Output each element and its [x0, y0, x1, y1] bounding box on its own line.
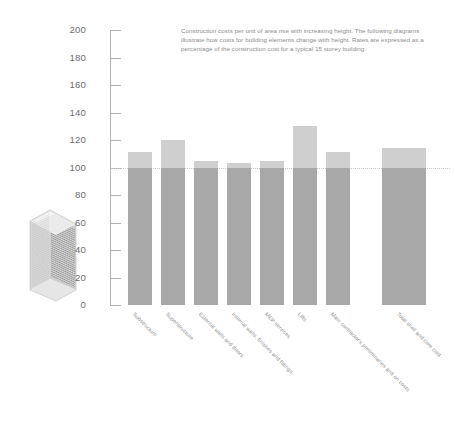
y-tick: 140 [78, 113, 122, 114]
x-axis-label: Lifts [297, 311, 309, 323]
bar [326, 152, 350, 305]
bar-segment-below-baseline [260, 168, 284, 306]
construction-cost-figure: Construction costs per unit of area rise… [0, 0, 455, 425]
x-axis-label: Superstructure [165, 311, 195, 341]
y-tick-mark [110, 305, 121, 306]
y-tick-label: 80 [75, 189, 86, 200]
y-tick: 20 [78, 278, 122, 279]
y-tick: 80 [78, 195, 122, 196]
x-axis-label: Main contractor's preliminaries and on c… [330, 311, 412, 393]
bar-segment-above-baseline [326, 152, 350, 167]
y-tick: 120 [78, 140, 122, 141]
x-axis-label: Substructure [132, 311, 159, 338]
y-tick-label: 160 [69, 79, 86, 90]
bar-segment-below-baseline [161, 168, 185, 306]
y-tick: 180 [78, 58, 122, 59]
x-axis-label: Internal walls, finishes and fittings [231, 311, 295, 375]
bar-segment-below-baseline [128, 168, 152, 306]
y-tick-label: 60 [75, 217, 86, 228]
y-tick-mark [110, 250, 121, 251]
chart-plot-area: 020406080100120140160180200 Substructure… [110, 30, 450, 305]
bar-segment-below-baseline [194, 168, 218, 306]
y-tick-label: 20 [75, 272, 86, 283]
y-tick-mark [110, 223, 121, 224]
y-tick: 160 [78, 85, 122, 86]
bar-segment-above-baseline [382, 148, 426, 167]
bar-segment-below-baseline [326, 168, 350, 306]
y-tick-label: 40 [75, 244, 86, 255]
y-tick-label: 200 [69, 24, 86, 35]
y-tick-label: 100 [69, 162, 86, 173]
bar-segment-above-baseline [128, 152, 152, 167]
y-tick-label: 140 [69, 107, 86, 118]
y-tick: 200 [78, 30, 122, 31]
bar [260, 161, 284, 305]
bar [227, 163, 251, 305]
y-tick: 40 [78, 250, 122, 251]
x-axis-label: Total shell and core cost [396, 311, 443, 358]
y-tick: 0 [78, 305, 122, 306]
tower-left-bands [32, 214, 49, 288]
y-tick-mark [110, 140, 121, 141]
y-tick-label: 120 [69, 134, 86, 145]
bar-segment-below-baseline [293, 168, 317, 306]
bar-segment-above-baseline [194, 161, 218, 168]
y-tick-mark [110, 30, 121, 31]
bar [194, 161, 218, 305]
y-tick-mark [110, 58, 121, 59]
y-tick-label: 0 [80, 299, 86, 310]
y-tick-mark [110, 85, 121, 86]
bar-segment-below-baseline [227, 168, 251, 306]
y-tick-mark [110, 113, 121, 114]
bar [382, 148, 426, 305]
y-tick-label: 180 [69, 52, 86, 63]
bar-segment-above-baseline [293, 126, 317, 167]
bar [161, 140, 185, 305]
x-axis-label: MEP services [264, 311, 292, 339]
bar [293, 126, 317, 305]
y-tick-mark [110, 195, 121, 196]
y-tick-mark [110, 278, 121, 279]
bar [128, 152, 152, 305]
bar-segment-above-baseline [260, 161, 284, 168]
y-tick: 60 [78, 223, 122, 224]
bar-segment-below-baseline [382, 168, 426, 306]
bar-segment-above-baseline [161, 140, 185, 168]
bar-segment-above-baseline [227, 163, 251, 167]
